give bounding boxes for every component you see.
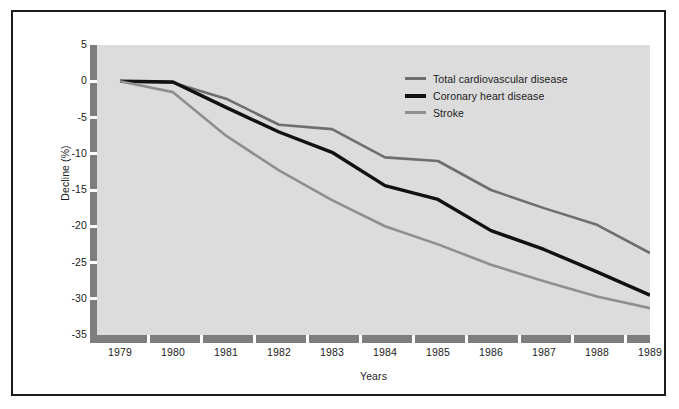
y-axis-tick (90, 80, 97, 83)
y-axis-tick (90, 261, 97, 264)
y-axis (90, 45, 97, 335)
y-axis-tick (90, 152, 97, 155)
y-axis-tick-label: -30 (45, 293, 87, 304)
x-axis-tick (147, 335, 150, 343)
y-axis-tick-label: -25 (45, 257, 87, 268)
x-axis-tick-label: 1988 (567, 346, 627, 358)
y-axis-tick (90, 116, 97, 119)
legend-item: Coronary heart disease (405, 87, 635, 104)
x-axis-tick-label: 1980 (143, 346, 203, 358)
x-axis-tick-label: 1981 (196, 346, 256, 358)
x-axis-title: Years (97, 370, 650, 382)
x-axis-tick (200, 335, 203, 343)
legend-line-swatch-icon (405, 111, 426, 114)
legend-item-label: Total cardiovascular disease (433, 73, 568, 85)
x-axis-tick-labels: 1979198019811982198319841985198619871988… (90, 346, 660, 362)
x-axis-tick (465, 335, 468, 343)
x-axis-tick (624, 335, 627, 343)
legend-line-swatch-icon (405, 94, 426, 98)
x-axis-tick-label: 1984 (355, 346, 415, 358)
y-axis-tick (90, 297, 97, 300)
y-axis-tick-label: 5 (45, 39, 87, 50)
x-axis-tick-label: 1985 (408, 346, 468, 358)
x-axis-tick (253, 335, 256, 343)
figure-border: 50-5-10-15-20-25-30-35 19791980198119821… (11, 10, 666, 396)
legend-line-swatch-icon (405, 77, 426, 80)
legend-item-label: Coronary heart disease (433, 90, 544, 102)
y-axis-tick (90, 189, 97, 192)
x-axis-tick-label: 1982 (249, 346, 309, 358)
x-axis-tick-label: 1987 (514, 346, 574, 358)
y-axis-tick (90, 225, 97, 228)
x-axis-tick (412, 335, 415, 343)
legend-item: Total cardiovascular disease (405, 70, 635, 87)
legend-item: Stroke (405, 104, 635, 121)
x-axis-tick-label: 1986 (461, 346, 521, 358)
x-axis-tick-label: 1979 (90, 346, 150, 358)
x-axis-tick-label: 1983 (302, 346, 362, 358)
x-axis-tick (306, 335, 309, 343)
chart-legend: Total cardiovascular diseaseCoronary hea… (405, 70, 635, 121)
x-axis-tick (359, 335, 362, 343)
x-axis-tick (518, 335, 521, 343)
figure-canvas: 50-5-10-15-20-25-30-35 19791980198119821… (0, 0, 679, 409)
x-axis-tick (571, 335, 574, 343)
y-axis-tick-label: -35 (45, 329, 87, 340)
y-axis-tick-label: 0 (45, 75, 87, 86)
y-axis-title: Decline (%) (59, 113, 71, 233)
x-axis (90, 335, 650, 343)
x-axis-tick-label: 1989 (620, 346, 679, 358)
legend-item-label: Stroke (433, 107, 464, 119)
